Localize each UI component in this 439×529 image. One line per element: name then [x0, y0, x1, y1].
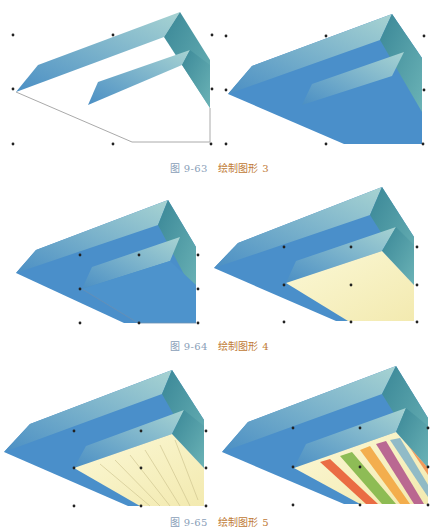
- caption-title: 绘制图形 5: [218, 517, 269, 528]
- figure-9-65-left: [0, 360, 220, 523]
- caption-number: 图 9-64: [170, 341, 207, 352]
- caption-number: 图 9-63: [170, 163, 207, 174]
- caption-title: 绘制图形 4: [218, 341, 269, 352]
- caption-number: 图 9-65: [170, 517, 207, 528]
- caption-9-64: 图 9-64绘制图形 4: [0, 338, 439, 353]
- figure-9-63-right: [220, 0, 439, 150]
- figure-9-63-left: [0, 0, 220, 150]
- caption-title: 绘制图形 3: [218, 163, 269, 174]
- figure-9-65-right: [210, 360, 439, 523]
- caption-9-65: 图 9-65绘制图形 5: [0, 514, 439, 529]
- figure-9-64-right: [210, 185, 439, 335]
- figure-9-64-left: [0, 185, 220, 335]
- caption-9-63: 图 9-63绘制图形 3: [0, 160, 439, 175]
